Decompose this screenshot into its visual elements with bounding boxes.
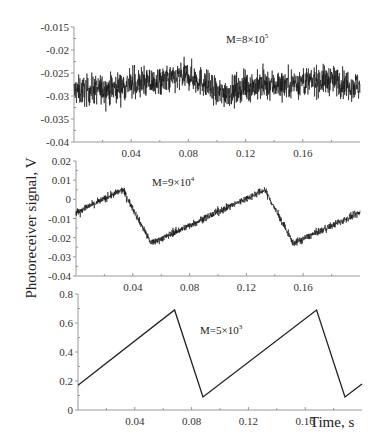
y-tick-label: 0.02 <box>52 155 71 167</box>
x-tick-label: 0.12 <box>237 281 256 293</box>
x-tick-label: 0.16 <box>294 281 314 293</box>
panel-bottom: 0.80.60.40.200.040.080.120.16M=5×103 <box>59 288 362 427</box>
x-tick-label: 0.16 <box>293 147 313 159</box>
panel-middle: 0.020.010-0.01-0.02-0.03-0.040.040.080.1… <box>48 155 360 293</box>
y-tick-label: 0.2 <box>59 375 73 387</box>
figure: -0.015-0.02-0.025-0.03-0.035-0.040.040.0… <box>0 0 392 448</box>
x-tick-label: 0.04 <box>122 147 142 159</box>
y-tick-label: -0.01 <box>48 213 71 225</box>
annotation-modulation: M=5×103 <box>200 323 243 336</box>
panel-top: -0.015-0.02-0.025-0.03-0.035-0.040.040.0… <box>41 21 360 159</box>
y-tick-label: 0 <box>68 404 74 416</box>
y-tick-label: 0.01 <box>52 174 71 186</box>
y-tick-label: -0.025 <box>41 67 70 79</box>
y-tick-label: 0.8 <box>59 288 73 300</box>
y-tick-label: -0.04 <box>46 136 69 148</box>
y-tick-label: -0.02 <box>46 44 69 56</box>
y-tick-label: 0.4 <box>59 346 73 358</box>
y-tick-label: 0.6 <box>59 317 73 329</box>
x-tick-label: 0.04 <box>125 415 145 427</box>
x-tick-label: 0.08 <box>180 281 200 293</box>
y-tick-label: -0.03 <box>46 90 69 102</box>
signal-trace <box>74 57 360 112</box>
y-tick-label: 0 <box>66 193 72 205</box>
x-tick-label: 0.12 <box>236 147 255 159</box>
x-tick-label: 0.12 <box>239 415 258 427</box>
x-tick-label: 0.04 <box>123 281 143 293</box>
y-tick-label: -0.03 <box>48 251 71 263</box>
y-tick-label: -0.035 <box>41 113 70 125</box>
annotation-modulation: M=9×104 <box>152 175 195 188</box>
annotation-modulation: M=8×105 <box>226 32 269 45</box>
y-tick-label: -0.04 <box>48 270 71 282</box>
signal-trace <box>76 187 360 246</box>
x-tick-label: 0.08 <box>182 415 202 427</box>
x-tick-label: 0.08 <box>179 147 199 159</box>
signal-trace <box>78 310 362 397</box>
x-axis-label: Time, s <box>310 414 355 430</box>
y-tick-label: -0.015 <box>41 21 70 33</box>
y-tick-label: -0.02 <box>48 232 71 244</box>
y-axis-label: Photoreceiver signal, V <box>23 157 39 298</box>
